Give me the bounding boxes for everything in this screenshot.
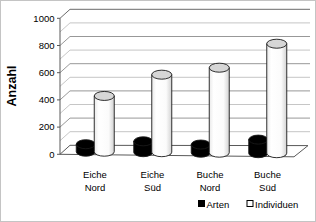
y-tick-label-600: 600	[39, 67, 55, 78]
cylinder-top-individuen-buche-süd	[267, 39, 287, 48]
y-tick-label-1000: 1000	[33, 13, 54, 24]
y-tick-label-0: 0	[49, 149, 54, 160]
cylinder-top-arten-eiche-süd	[134, 137, 153, 146]
wall-gridline-400	[60, 91, 70, 100]
legend-label-individuen: Individuen	[255, 199, 298, 210]
cylinder-top-individuen-buche-nord	[209, 63, 229, 72]
category-label-4-line1: Buche	[254, 169, 281, 180]
y-axis-title: Anzahl	[5, 66, 19, 107]
cylinder-individuen-eiche-süd	[152, 75, 172, 157]
legend-swatch-individuen	[247, 201, 253, 207]
wall-gridline-100	[60, 132, 70, 141]
wall-gridline-1000	[60, 9, 70, 18]
chart-svg: Anzahl 0 200 400 600 800 1000 Eiche Nord…	[1, 1, 315, 221]
cylinder-top-arten-buche-süd	[249, 135, 268, 144]
cylinder-top-arten-buche-nord	[191, 140, 210, 149]
cylinder-individuen-buche-nord	[209, 68, 229, 158]
bars	[76, 39, 287, 157]
cylinder-top-arten-eiche-nord	[76, 140, 95, 149]
category-label-1-line2: Nord	[85, 182, 106, 193]
wall-gridline-700	[60, 50, 70, 59]
category-label-2-line2: Süd	[144, 182, 161, 193]
wall-gridline-900	[60, 23, 70, 32]
wall-gridline-800	[60, 37, 70, 46]
wall-gridline-600	[60, 64, 70, 73]
cylinder-top-individuen-eiche-nord	[94, 91, 114, 100]
wall-gridline-500	[60, 77, 70, 86]
wall-gridline-300	[60, 105, 70, 114]
cylinder-top-individuen-eiche-süd	[152, 70, 172, 79]
category-label-3-line1: Buche	[197, 169, 224, 180]
category-label-4-line2: Süd	[259, 182, 276, 193]
category-label-1-line1: Eiche	[83, 169, 107, 180]
legend: Arten Individuen	[199, 199, 299, 210]
category-label-2-line1: Eiche	[141, 169, 165, 180]
y-tick-label-800: 800	[39, 40, 55, 51]
legend-swatch-arten	[199, 201, 205, 207]
wall-gridline-200	[60, 118, 70, 127]
cylinder-individuen-eiche-nord	[94, 96, 114, 156]
y-tick-label-400: 400	[39, 94, 55, 105]
legend-label-arten: Arten	[207, 199, 230, 210]
y-tick-label-200: 200	[39, 121, 55, 132]
cylinder-individuen-buche-süd	[267, 44, 287, 158]
chart-container: Anzahl 0 200 400 600 800 1000 Eiche Nord…	[0, 0, 316, 222]
category-label-3-line2: Nord	[200, 182, 221, 193]
